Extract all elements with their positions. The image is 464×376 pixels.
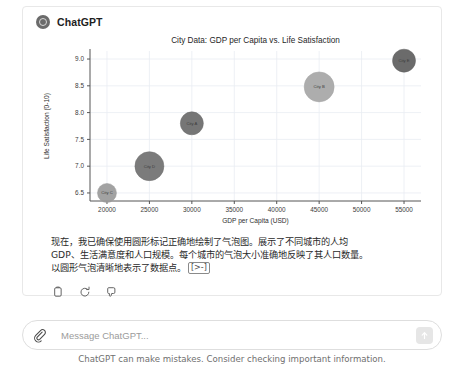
disclaimer-footnote: ChatGPT can make mistakes. Consider chec… (0, 354, 464, 364)
copy-icon[interactable] (51, 285, 65, 299)
paperclip-icon[interactable] (32, 328, 47, 343)
bubble-point: City D (135, 152, 164, 181)
send-button[interactable] (416, 327, 433, 344)
x-tick-label: 30000 (183, 206, 201, 213)
x-axis-title: GDP per Capita (USD) (222, 217, 289, 225)
chatgpt-conversation-screen: ChatGPT City Data: GDP per Capita vs. Li… (0, 0, 464, 376)
x-tick-label: 40000 (268, 206, 286, 213)
assistant-name: ChatGPT (57, 16, 103, 28)
x-tick-label: 25000 (141, 206, 159, 213)
assistant-message-card: ChatGPT City Data: GDP per Capita vs. Li… (22, 6, 442, 296)
bubble-label: City A (186, 121, 197, 126)
x-tick-label: 55000 (395, 206, 413, 213)
bubble-label: City B (314, 84, 325, 89)
thumbs-down-icon[interactable] (105, 285, 119, 299)
bubble-point: City C (97, 183, 116, 202)
message-input[interactable] (47, 321, 416, 349)
chatgpt-logo-icon (36, 15, 50, 29)
bubble-point: City B (304, 72, 334, 102)
bubble-chart-svg: City Data: GDP per Capita vs. Life Satis… (35, 33, 431, 231)
assistant-message-text: 现在，我已确保使用圆形标记正确地绘制了气泡图。展示了不同城市的人均 GDP、生活… (51, 235, 429, 275)
y-tick-label: 8.0 (75, 109, 84, 116)
bubble-point: City A (180, 112, 203, 135)
y-axis-title: Life Satisfaction (0-10) (43, 93, 51, 159)
bubble-chart: City Data: GDP per Capita vs. Life Satis… (35, 33, 431, 231)
y-tick-label: 6.5 (75, 189, 84, 196)
y-tick-label: 8.5 (75, 82, 84, 89)
message-line-1: 现在，我已确保使用圆形标记正确地绘制了气泡图。展示了不同城市的人均 (51, 235, 429, 248)
x-tick-label: 20000 (98, 206, 116, 213)
x-tick-label: 50000 (353, 206, 371, 213)
message-line-3: 以圆形气泡清晰地表示了数据点。 (51, 262, 186, 273)
message-line-3-wrap: 以圆形气泡清晰地表示了数据点。[>-] (51, 261, 429, 274)
streaming-cursor-token: [>-] (188, 262, 210, 274)
chart-title: City Data: GDP per Capita vs. Life Satis… (171, 36, 340, 45)
y-tick-label: 7.0 (75, 162, 84, 169)
message-composer[interactable] (22, 320, 442, 350)
x-tick-label: 45000 (310, 206, 328, 213)
message-actions (51, 285, 119, 299)
assistant-header: ChatGPT (36, 15, 103, 29)
bubble-label: City E (398, 58, 409, 63)
regenerate-icon[interactable] (78, 285, 92, 299)
arrow-up-icon (419, 330, 430, 341)
message-line-2: GDP、生活满意度和人口规模。每个城市的气泡大小准确地反映了其人口数量。 (51, 248, 429, 261)
x-tick-label: 35000 (225, 206, 243, 213)
bubble-point: City E (393, 49, 416, 72)
y-tick-label: 9.0 (75, 55, 84, 62)
y-tick-label: 7.5 (75, 136, 84, 143)
bubble-label: City D (144, 164, 155, 169)
bubble-label: City C (101, 190, 112, 195)
